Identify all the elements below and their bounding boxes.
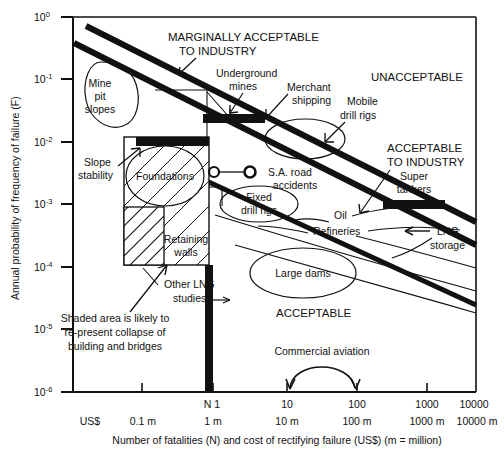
slope-stability-bar <box>136 137 209 146</box>
oil-label: Oil <box>334 209 347 221</box>
merchant-label-l1: Merchant <box>287 81 331 93</box>
large-dams-label: Large dams <box>275 267 330 279</box>
zone-label-acc-industry-l2: TO INDUSTRY <box>387 156 465 168</box>
cost-tick-label: 1 m <box>204 415 222 427</box>
other-lng-label-l2: studies <box>173 292 206 304</box>
x-tick-label: 1000 <box>415 398 439 410</box>
underground-label-l1: Underground <box>216 67 277 79</box>
fixed-label-l1: Fixed <box>246 191 272 203</box>
zone-label-marginal-l2: TO INDUSTRY <box>179 45 257 57</box>
lng-vertical-bar <box>205 265 213 392</box>
cost-tick-label: 0.1 m <box>130 415 157 427</box>
merchant-label-l2: shipping <box>292 94 331 106</box>
mine-pit-label-l1: Mine <box>89 77 112 89</box>
slope-label-l1: Slope <box>84 156 111 168</box>
x-tick-label: 10000 <box>459 398 488 410</box>
refineries-label: Refineries <box>313 225 360 237</box>
foundations-label: Foundations <box>136 170 194 182</box>
sa-road-circle-right <box>245 167 256 178</box>
super-label-l1: Super <box>400 170 429 182</box>
shaded-note-l1: Shaded area is likely to <box>61 312 170 324</box>
risk-chart-figure: 100 10-1 10-2 10-3 10-4 10-5 10-6 Annual… <box>0 0 504 459</box>
super-label-l2: tankers <box>397 183 431 195</box>
zone-label-unacceptable: UNACCEPTABLE <box>371 71 463 83</box>
shaded-note-l3: building and bridges <box>68 340 162 352</box>
chart-svg: 100 10-1 10-2 10-3 10-4 10-5 10-6 Annual… <box>0 0 504 459</box>
underground-label-l2: mines <box>229 80 257 92</box>
shaded-note-l2: re-present collapse of <box>65 326 166 338</box>
y-axis-title: Annual probability of frequency of failu… <box>9 96 21 300</box>
zone-label-acceptable: ACCEPTABLE <box>276 307 352 319</box>
cost-axis-prefix: US$ <box>80 415 101 427</box>
retaining-label-l2: walls <box>173 246 197 258</box>
lng-label-l1: LNG <box>437 225 459 237</box>
slope-label-l2: stability <box>78 169 114 181</box>
cost-tick-label: 100 m <box>342 415 371 427</box>
zone-label-marginal-l1: MARGINALLY ACCEPTABLE <box>168 31 319 43</box>
mobile-label-l1: Mobile <box>347 95 378 107</box>
sa-road-circle-left <box>209 167 219 177</box>
x-tick-label: 10 <box>281 398 293 410</box>
super-tankers-bar <box>383 200 445 209</box>
mobile-label-l2: drill rigs <box>340 109 376 121</box>
commercial-aviation-label: Commercial aviation <box>274 345 369 357</box>
lng-label-l2: storage <box>430 239 465 251</box>
mine-pit-label-l2: pit <box>94 90 105 102</box>
x-tick-label: 100 <box>348 398 366 410</box>
cost-tick-label: 1000 m <box>409 415 444 427</box>
cost-tick-label: 10 m <box>275 415 299 427</box>
x-tick-label: N 1 <box>204 398 221 410</box>
sa-road-label-l1: S.A. road <box>268 166 312 178</box>
cost-tick-label: 10000 m <box>457 415 498 427</box>
zone-label-acc-industry-l1: ACCEPTABLE <box>387 142 463 154</box>
retaining-label-l1: Retaining <box>164 233 209 245</box>
fixed-label-l2: drill rigs <box>241 204 277 216</box>
x-axis-title: Number of fatalities (N) and cost of rec… <box>112 434 441 446</box>
underground-mines-bar <box>203 114 265 123</box>
mine-pit-label-l3: slopes <box>85 103 115 115</box>
x-tick-labels-cost: US$ 0.1 m 1 m 10 m 100 m 1000 m 10000 m <box>80 415 498 427</box>
